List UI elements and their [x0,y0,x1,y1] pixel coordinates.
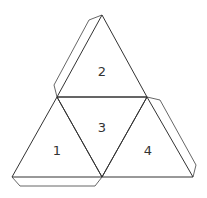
tab-face-1-bottom [12,177,102,186]
face-2-label: 2 [98,64,106,79]
glue-tabs [12,15,196,186]
face-4-label: 4 [144,143,152,158]
face-1-label: 1 [53,143,61,158]
tetrahedron-net-diagram: 1 2 3 4 [0,0,207,198]
faces [12,15,193,177]
face-3-label: 3 [98,120,106,135]
face-1 [12,97,102,177]
face-2 [57,15,147,97]
face-4 [102,97,193,177]
net-svg: 1 2 3 4 [0,0,207,198]
face-3 [57,97,147,177]
